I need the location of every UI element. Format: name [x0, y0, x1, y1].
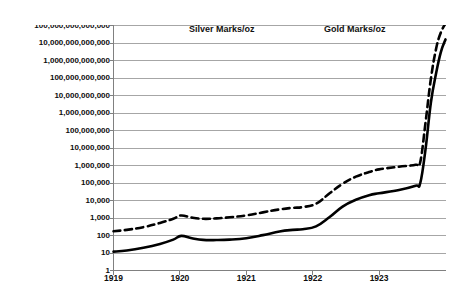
chart-plot-area	[0, 0, 456, 298]
legend-label-silver: Silver Marks/oz	[189, 24, 255, 34]
x-axis-tick-label: 1919	[104, 274, 123, 283]
x-axis-tick-label: 1921	[237, 274, 256, 283]
x-axis-tick-label: 1923	[370, 274, 389, 283]
legend-label-gold: Gold Marks/oz	[324, 24, 386, 34]
series-line-silver	[114, 39, 446, 251]
x-axis-tick-labels: 19191920192119221923	[0, 274, 456, 294]
plot-top-mask	[0, 0, 456, 25]
chart-container: Marks / oz 1101001,00010,000100,0001,000…	[0, 0, 456, 298]
x-axis-tick-label: 1922	[303, 274, 322, 283]
x-axis-tick-label: 1920	[170, 274, 189, 283]
